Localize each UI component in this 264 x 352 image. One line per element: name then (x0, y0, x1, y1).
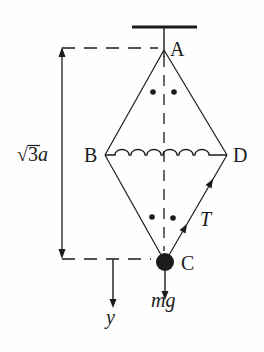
tension-arrowhead-upper (206, 179, 214, 189)
label-point-c: C (181, 252, 194, 274)
label-y-axis: y (104, 306, 115, 329)
edge-ab (105, 50, 164, 155)
edge-dc (165, 155, 227, 262)
lower-left-dot (149, 214, 155, 220)
label-weight: mg (151, 289, 175, 312)
label-dimension: √3a (17, 143, 48, 165)
tension-arrowhead-lower (180, 224, 188, 234)
spring-bd (105, 150, 227, 156)
mass-ball (156, 253, 174, 271)
label-dimension-variable: a (38, 143, 48, 165)
label-point-d: D (233, 144, 247, 166)
label-point-b: B (84, 144, 97, 166)
edge-bc (105, 155, 165, 262)
physics-diagram: A B D C T mg y √3a (0, 0, 264, 352)
label-point-a: A (170, 38, 185, 60)
lower-right-dot (170, 215, 176, 221)
label-tension: T (200, 208, 213, 230)
figure-canvas: A B D C T mg y √3a (0, 0, 264, 352)
upper-right-dot (171, 89, 177, 95)
dimension-arrowhead-bottom (59, 249, 66, 259)
upper-left-dot (150, 89, 156, 95)
label-dimension-radical: √3 (17, 143, 38, 165)
edge-ad (164, 50, 227, 155)
